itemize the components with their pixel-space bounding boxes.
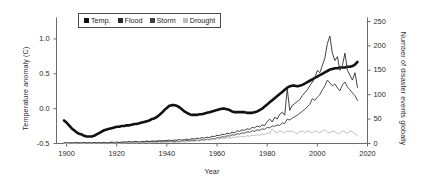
- legend-label-temp: Temp.: [91, 16, 111, 25]
- legend-item-flood: Flood: [118, 16, 143, 25]
- y-tick-label-right: 200: [374, 41, 400, 50]
- y-tick-label-right: 150: [374, 65, 400, 74]
- x-tick-label: 1940: [150, 149, 184, 158]
- x-tick-label: 1900: [50, 149, 84, 158]
- y-tick-label-left: 0.0: [24, 104, 50, 113]
- y-tick-label-right: 50: [374, 114, 400, 123]
- x-tick-label: 2020: [351, 149, 385, 158]
- y-tick-label-right: 100: [374, 90, 400, 99]
- y-tick-label-left: -0.5: [24, 139, 50, 148]
- series-line-storm: [64, 36, 357, 143]
- series-line-drought: [64, 129, 357, 144]
- legend-item-drought: Drought: [183, 16, 216, 25]
- x-tick-label: 1920: [100, 149, 134, 158]
- chart-figure: Temperature anomaly (C) Number of disast…: [0, 0, 426, 185]
- x-tick-label: 2000: [300, 149, 334, 158]
- legend-swatch-storm: [150, 18, 155, 23]
- y-tick-label-right: 250: [374, 17, 400, 26]
- legend-label-flood: Flood: [125, 16, 143, 25]
- chart-legend: Temp. Flood Storm Drought: [78, 13, 221, 28]
- y-tick-label-left: 0.5: [24, 69, 50, 78]
- x-tick-label: 1980: [250, 149, 284, 158]
- legend-item-temp: Temp.: [84, 16, 111, 25]
- legend-swatch-drought: [183, 18, 188, 23]
- legend-label-drought: Drought: [190, 16, 216, 25]
- y-tick-label-right: 0: [374, 139, 400, 148]
- x-tick-label: 1960: [200, 149, 234, 158]
- legend-item-storm: Storm: [150, 16, 176, 25]
- legend-label-storm: Storm: [157, 16, 176, 25]
- legend-swatch-temp: [84, 18, 89, 23]
- y-tick-label-left: 1.0: [24, 34, 50, 43]
- legend-swatch-flood: [118, 18, 123, 23]
